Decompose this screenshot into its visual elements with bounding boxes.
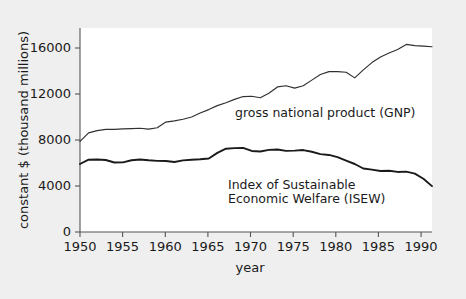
y-tick-label-4000: 4000 — [38, 178, 71, 193]
isew-series-label-line2: Economic Welfare (ISEW) — [228, 191, 386, 206]
x-tick-label-1980: 1980 — [319, 239, 352, 254]
x-tick-label-1985: 1985 — [362, 239, 395, 254]
y-tick-label-0: 0 — [63, 224, 71, 239]
y-tick-label-16000: 16000 — [30, 40, 71, 55]
x-axis-title: year — [235, 260, 265, 275]
x-tick-label-1960: 1960 — [149, 239, 182, 254]
y-axis-title: constant $ (thousand millions) — [16, 31, 31, 229]
y-tick-label-12000: 12000 — [30, 86, 71, 101]
x-tick-label-1970: 1970 — [234, 239, 267, 254]
y-tick-label-8000: 8000 — [38, 132, 71, 147]
line-chart: 0 4000 8000 12000 16000 constant $ (thou… — [0, 0, 466, 299]
x-tick-label-1950: 1950 — [63, 239, 96, 254]
x-tick-label-1965: 1965 — [191, 239, 224, 254]
chart-figure: 0 4000 8000 12000 16000 constant $ (thou… — [0, 0, 466, 299]
x-tick-label-1975: 1975 — [277, 239, 310, 254]
x-tick-label-1955: 1955 — [106, 239, 139, 254]
isew-series-label-line1: Index of Sustainable — [228, 177, 356, 192]
x-tick-label-1990: 1990 — [405, 239, 438, 254]
gnp-series-label: gross national product (GNP) — [235, 105, 415, 120]
